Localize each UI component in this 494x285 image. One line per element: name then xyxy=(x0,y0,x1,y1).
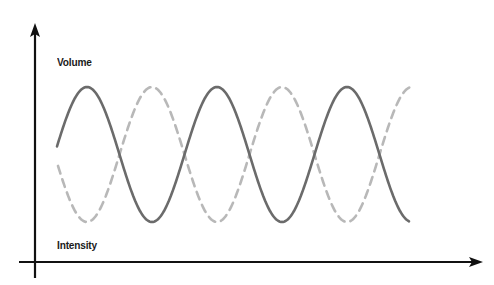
y-axis-label: Volume xyxy=(57,56,92,68)
x-axis-label: Intensity xyxy=(57,239,97,251)
